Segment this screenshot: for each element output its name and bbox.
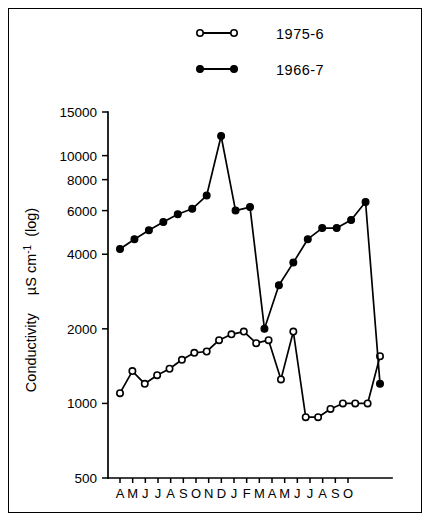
y-axis-title: Conductivity µS cm-1(log) (22, 208, 39, 392)
data-point-marker (216, 337, 222, 343)
data-point-marker (261, 325, 268, 332)
x-tick-label: J (231, 486, 238, 501)
series-1975-6 (117, 328, 383, 420)
x-axis-ticks: AMJJASONDJFMAMJJASO (116, 478, 353, 501)
y-axis-ticks: 500100020004000600080001000015000 (59, 105, 108, 486)
legend-entry-1966-7: 1966-7 (197, 62, 325, 78)
x-tick-label: M (254, 486, 265, 501)
data-point-marker (340, 400, 346, 406)
chart-series-layer (117, 133, 384, 421)
data-point-marker (348, 217, 355, 224)
y-tick-label: 4000 (67, 247, 97, 262)
data-point-marker (154, 372, 160, 378)
data-point-marker (203, 192, 210, 199)
data-point-marker (160, 219, 167, 226)
x-tick-label: J (142, 486, 149, 501)
x-tick-label: N (204, 486, 213, 501)
data-point-marker (327, 406, 333, 412)
series-1966-7 (117, 133, 384, 388)
data-point-marker (278, 376, 284, 382)
legend-marker-filled-circle (231, 66, 238, 73)
data-point-marker (362, 199, 369, 206)
data-point-marker (228, 331, 234, 337)
legend-entry-1975-6: 1975-6 (197, 26, 324, 42)
y-tick-label: 8000 (67, 173, 97, 188)
x-tick-label: A (268, 486, 277, 501)
data-point-marker (290, 259, 297, 266)
x-tick-label: O (343, 486, 353, 501)
data-point-marker (232, 207, 239, 214)
data-point-marker (303, 414, 309, 420)
data-point-marker (174, 211, 181, 218)
x-tick-label: A (166, 486, 175, 501)
y-axis-title-units: µS cm (23, 254, 39, 295)
y-axis-title-main: Conductivity (23, 312, 39, 392)
x-tick-label: O (191, 486, 201, 501)
legend-label-1966-7: 1966-7 (276, 62, 324, 78)
x-tick-label: J (307, 486, 314, 501)
x-tick-label: A (318, 486, 327, 501)
legend-marker-open-circle (197, 30, 203, 36)
legend-label-1975-6: 1975-6 (276, 26, 324, 42)
data-point-marker (333, 225, 340, 232)
data-point-marker (166, 366, 172, 372)
y-axis-title-scale: (log) (23, 208, 39, 237)
y-tick-label: 6000 (67, 204, 97, 219)
data-point-marker (142, 381, 148, 387)
series-polyline-1966-7 (120, 136, 380, 384)
y-tick-label: 15000 (59, 105, 97, 120)
y-tick-label: 1000 (67, 396, 97, 411)
data-point-marker (117, 390, 123, 396)
data-point-marker (364, 400, 370, 406)
y-axis-title-text: Conductivity µS cm-1(log) (22, 208, 39, 392)
x-tick-label: J (294, 486, 301, 501)
data-point-marker (189, 205, 196, 212)
y-tick-label: 500 (74, 471, 97, 486)
data-point-marker (290, 328, 296, 334)
data-point-marker (275, 282, 282, 289)
figure-root: 1975-6 1966-7 Conductivity µS cm-1(log) … (0, 0, 436, 530)
conductivity-line-chart: 1975-6 1966-7 Conductivity µS cm-1(log) … (0, 0, 436, 530)
data-point-marker (265, 337, 271, 343)
y-tick-label: 2000 (67, 322, 97, 337)
legend-marker-filled-circle (197, 66, 204, 73)
data-point-marker (131, 236, 138, 243)
data-point-marker (218, 133, 225, 140)
legend-marker-open-circle (231, 30, 237, 36)
data-point-marker (377, 380, 384, 387)
x-tick-label: S (179, 486, 188, 501)
data-point-marker (352, 400, 358, 406)
x-tick-label: D (217, 486, 226, 501)
data-point-marker (203, 348, 209, 354)
data-point-marker (179, 357, 185, 363)
data-point-marker (304, 236, 311, 243)
data-point-marker (247, 204, 254, 211)
x-tick-label: F (243, 486, 251, 501)
data-point-marker (191, 350, 197, 356)
y-axis-title-units-sup: -1 (22, 244, 33, 253)
data-point-marker (117, 246, 124, 253)
y-tick-label: 10000 (59, 149, 97, 164)
data-point-marker (241, 328, 247, 334)
data-point-marker (129, 368, 135, 374)
x-tick-label: J (155, 486, 162, 501)
x-tick-label: S (331, 486, 340, 501)
data-point-marker (319, 225, 326, 232)
x-tick-label: A (116, 486, 125, 501)
x-tick-label: M (279, 486, 290, 501)
x-tick-label: M (127, 486, 138, 501)
data-point-marker (145, 227, 152, 234)
data-point-marker (315, 414, 321, 420)
chart-legend: 1975-6 1966-7 (197, 26, 325, 78)
data-point-marker (253, 340, 259, 346)
